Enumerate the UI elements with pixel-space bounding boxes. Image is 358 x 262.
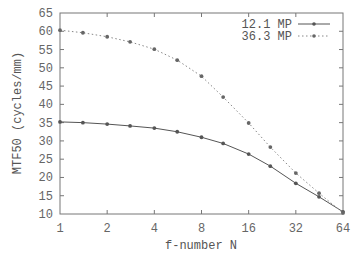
legend: 12.1 MP 36.3 MP [242, 18, 330, 44]
y-tick-label: 10 [39, 208, 53, 222]
x-axis-label: f-number N [165, 239, 237, 253]
x-tick-label: 1 [56, 222, 63, 236]
y-tick-label: 30 [39, 135, 53, 149]
data-point [268, 145, 272, 149]
data-point [341, 211, 345, 215]
y-tick-label: 55 [39, 44, 53, 58]
data-point [81, 31, 85, 35]
legend-marker-12mp [312, 22, 316, 26]
data-point [152, 126, 156, 130]
x-tick-label: 4 [151, 222, 158, 236]
y-tick-label: 35 [39, 117, 53, 131]
y-tick-label: 40 [39, 98, 53, 112]
data-point [128, 124, 132, 128]
y-tick-label: 25 [39, 153, 53, 167]
data-point [247, 121, 251, 125]
y-tick-label: 20 [39, 171, 53, 185]
x-tick-label: 2 [104, 222, 111, 236]
data-point [175, 58, 179, 62]
data-point [152, 47, 156, 51]
data-point [294, 181, 298, 185]
y-tick-label: 50 [39, 62, 53, 76]
data-point [268, 164, 272, 168]
data-point [200, 74, 204, 78]
legend-marker-36mp [312, 34, 316, 38]
y-tick-label: 60 [39, 25, 53, 39]
x-tick-label: 64 [336, 222, 350, 236]
data-point [317, 191, 321, 195]
data-point [221, 95, 225, 99]
data-point [294, 171, 298, 175]
x-tick-label: 16 [241, 222, 255, 236]
x-axis-ticks: 1248163264 [56, 13, 350, 236]
data-point [105, 35, 109, 39]
legend-label-36mp: 36.3 MP [242, 30, 292, 44]
y-tick-label: 65 [39, 7, 53, 21]
data-point [175, 130, 179, 134]
data-point [128, 40, 132, 44]
mtf50-line-chart: 101520253035404550556065 1248163264 f-nu… [0, 0, 358, 262]
series-layer [58, 28, 345, 215]
data-point [58, 120, 62, 124]
data-point [247, 152, 251, 156]
x-tick-label: 8 [198, 222, 205, 236]
data-point [105, 122, 109, 126]
data-point [81, 121, 85, 125]
y-tick-label: 15 [39, 190, 53, 204]
data-point [200, 135, 204, 139]
y-axis-label: MTF50 (cycles/mm) [11, 52, 25, 174]
x-tick-label: 32 [289, 222, 303, 236]
y-tick-label: 45 [39, 80, 53, 94]
y-axis-ticks: 101520253035404550556065 [39, 7, 343, 222]
data-point [58, 28, 62, 32]
plot-frame [60, 13, 343, 214]
data-point [317, 195, 321, 199]
data-point [221, 142, 225, 146]
